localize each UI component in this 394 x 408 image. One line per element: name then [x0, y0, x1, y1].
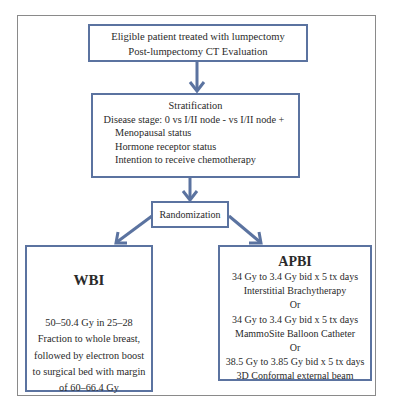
stratification-title: Stratification — [93, 99, 298, 113]
apbi-line-5: MammoSite Balloon Catheter — [220, 327, 370, 341]
eligible-line-2: Post-lumpectomy CT Evaluation — [90, 44, 306, 59]
apbi-line-8: 3D Conformal external beam — [220, 369, 370, 383]
wbi-line-3: followed by electron boost — [27, 348, 151, 364]
disease-stage-text: Disease stage: 0 vs I/II node - vs I/II … — [90, 113, 298, 127]
stratification-item-chemotherapy: Intention to receive chemotherapy — [93, 153, 298, 167]
wbi-line-2: Fraction to whole breast, — [27, 331, 151, 347]
apbi-line-4: 34 Gy to 3.4 Gy bid x 5 tx days — [220, 313, 370, 327]
apbi-title: APBI — [220, 254, 370, 269]
apbi-line-1: 34 Gy to 3.4 Gy bid x 5 tx days — [220, 270, 370, 284]
stratification-item-menopausal: Menopausal status — [93, 126, 298, 140]
randomization-label: Randomization — [159, 209, 220, 220]
wbi-line-4: to surgical bed with margin — [27, 364, 151, 380]
stratification-box: Stratification Disease stage: 0 vs I/II … — [91, 93, 300, 178]
wbi-box: WBI 50–50.4 Gy in 25–28 Fraction to whol… — [25, 245, 153, 392]
apbi-line-3: Or — [220, 298, 370, 312]
wbi-title: WBI — [27, 271, 151, 289]
apbi-box: APBI 34 Gy to 3.4 Gy bid x 5 tx days Int… — [218, 245, 372, 381]
eligible-line-1: Eligible patient treated with lumpectomy — [90, 29, 306, 44]
stratification-item-hormone: Hormone receptor status — [93, 140, 298, 154]
wbi-line-1: 50–50.4 Gy in 25–28 — [27, 315, 151, 331]
apbi-line-2: Interstitial Brachytherapy — [220, 284, 370, 298]
randomization-box: Randomization — [151, 201, 229, 228]
wbi-line-5: of 60–66.4 Gy — [27, 380, 151, 396]
eligible-patient-box: Eligible patient treated with lumpectomy… — [88, 24, 308, 62]
apbi-line-6: Or — [220, 341, 370, 355]
apbi-line-7: 38.5 Gy to 3.85 Gy bid x 5 tx days — [220, 355, 370, 369]
